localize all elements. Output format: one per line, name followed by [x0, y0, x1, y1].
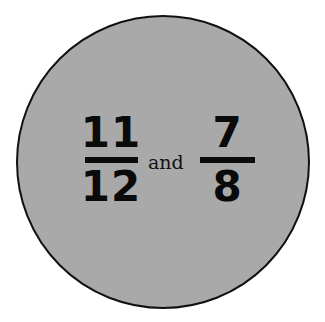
connector-word: and [148, 153, 184, 172]
fraction-2-numerator: 7 [200, 112, 255, 154]
fraction-2-denominator: 8 [200, 166, 255, 208]
fraction-1-denominator: 12 [80, 166, 142, 208]
fraction-1-numerator: 11 [80, 112, 142, 154]
